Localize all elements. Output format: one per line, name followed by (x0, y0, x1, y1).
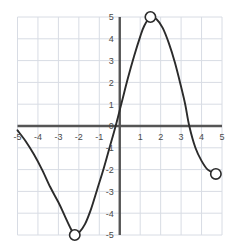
open-circle-marker-local-minimum (70, 230, 80, 240)
x-tick-label: 3 (179, 132, 184, 142)
x-tick-label: 4 (199, 132, 204, 142)
graph-figure: -5-4-3-2-112345 -5-4-3-2-1012345 (0, 0, 236, 250)
y-tick-label: -1 (106, 143, 114, 153)
open-circle-marker-local-maximum (145, 12, 155, 22)
y-tick-label: 3 (109, 56, 114, 66)
axes (18, 17, 223, 235)
x-tick-label: -2 (75, 132, 83, 142)
x-tick-label: -3 (54, 132, 62, 142)
y-tick-label: 0 (109, 121, 114, 131)
y-tick-label: 1 (109, 100, 114, 110)
y-tick-label: -4 (106, 209, 114, 219)
y-tick-label: 4 (109, 34, 114, 44)
x-tick-label: -4 (34, 132, 42, 142)
x-tick-label: 2 (158, 132, 163, 142)
x-tick-label: 1 (138, 132, 143, 142)
y-tick-label: -5 (106, 230, 114, 240)
x-tick-label: -1 (95, 132, 103, 142)
y-tick-label: 2 (109, 78, 114, 88)
plot-area: -5-4-3-2-112345 -5-4-3-2-1012345 (0, 0, 236, 250)
y-tick-label: -2 (106, 165, 114, 175)
open-circle-marker-right-endpoint (211, 169, 221, 179)
y-tick-label: -3 (106, 187, 114, 197)
y-tick-label: 5 (109, 12, 114, 22)
x-tick-label: -5 (13, 132, 21, 142)
x-tick-label: 5 (219, 132, 224, 142)
